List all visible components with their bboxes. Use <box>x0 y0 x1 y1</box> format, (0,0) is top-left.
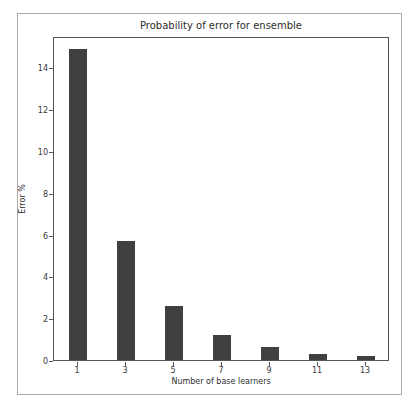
x-tick-label-11: 11 <box>302 366 332 375</box>
x-tick-label-3: 3 <box>110 366 140 375</box>
plot-area <box>53 37 389 361</box>
y-tick-mark-6 <box>49 236 53 237</box>
x-tick-label-5: 5 <box>158 366 188 375</box>
y-tick-label-2: 2 <box>18 315 48 324</box>
chart-title: Probability of error for ensemble <box>53 20 389 31</box>
y-tick-label-8: 8 <box>18 190 48 199</box>
y-tick-label-14: 14 <box>18 64 48 73</box>
y-tick-mark-8 <box>49 194 53 195</box>
bar-x13 <box>357 356 375 360</box>
y-tick-mark-2 <box>49 319 53 320</box>
y-tick-mark-0 <box>49 361 53 362</box>
y-tick-label-12: 12 <box>18 106 48 115</box>
y-tick-label-0: 0 <box>18 357 48 366</box>
bar-x1 <box>69 49 87 360</box>
bar-x3 <box>117 241 135 360</box>
y-tick-label-6: 6 <box>18 232 48 241</box>
bar-x11 <box>309 354 327 360</box>
y-tick-label-10: 10 <box>18 148 48 157</box>
x-tick-label-9: 9 <box>254 366 284 375</box>
y-tick-mark-10 <box>49 152 53 153</box>
x-tick-label-13: 13 <box>350 366 380 375</box>
y-axis-label: Error % <box>18 184 27 214</box>
bar-x7 <box>213 335 231 360</box>
x-tick-label-1: 1 <box>62 366 92 375</box>
x-tick-label-7: 7 <box>206 366 236 375</box>
y-tick-mark-4 <box>49 277 53 278</box>
y-tick-mark-12 <box>49 110 53 111</box>
y-tick-mark-14 <box>49 68 53 69</box>
x-axis-label: Number of base learners <box>53 377 389 386</box>
bar-x9 <box>261 347 279 360</box>
bar-x5 <box>165 306 183 360</box>
y-tick-label-4: 4 <box>18 273 48 282</box>
figure-canvas: { "figure": { "title": "Probability of e… <box>0 0 414 407</box>
